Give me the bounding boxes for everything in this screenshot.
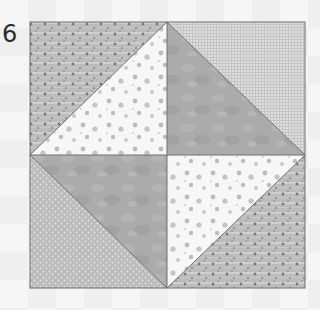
quilt-block: [0, 0, 316, 310]
